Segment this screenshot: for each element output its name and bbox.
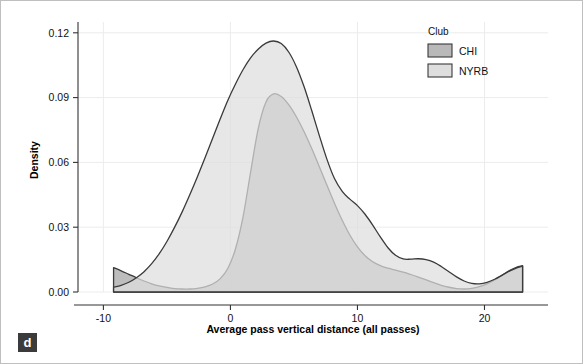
figure-panel: 0.000.030.060.090.12 -1001020 Density Av… xyxy=(0,0,583,364)
legend-label-chi: CHI xyxy=(459,45,477,57)
legend-swatch-chi[interactable] xyxy=(428,44,452,57)
x-axis-title: Average pass vertical distance (all pass… xyxy=(206,323,419,335)
density-plot: 0.000.030.060.090.12 -1001020 Density Av… xyxy=(0,0,583,364)
legend-label-nyrb: NYRB xyxy=(459,65,488,77)
x-tick-label-3: 20 xyxy=(479,312,491,324)
y-tick-label-1: 0.03 xyxy=(49,221,70,233)
legend-swatch-nyrb[interactable] xyxy=(428,64,452,77)
y-tick-label-4: 0.12 xyxy=(49,27,70,39)
y-axis-ticks: 0.000.030.060.090.12 xyxy=(49,27,78,298)
x-tick-label-0: -10 xyxy=(96,312,111,324)
x-axis-ticks: -1001020 xyxy=(96,305,491,324)
panel-label-badge: d xyxy=(18,333,37,352)
y-axis-title: Density xyxy=(28,141,40,179)
y-tick-label-0: 0.00 xyxy=(49,286,70,298)
y-tick-label-3: 0.09 xyxy=(49,91,70,103)
y-tick-label-2: 0.06 xyxy=(49,156,70,168)
legend-title: Club xyxy=(428,26,449,37)
